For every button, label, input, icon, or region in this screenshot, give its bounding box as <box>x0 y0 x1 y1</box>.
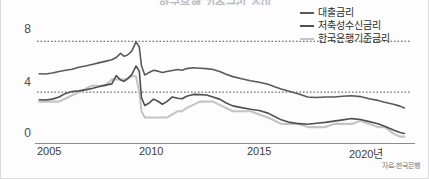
x-axis-tick-2005: 2005 <box>37 145 61 157</box>
x-axis-tick-2010: 2010 <box>139 145 163 157</box>
legend-item-deposit-rate: 저축성수신금리 <box>300 20 390 32</box>
legend-swatch-loan-rate <box>300 12 314 14</box>
legend-label-deposit-rate: 저축성수신금리 <box>318 20 381 32</box>
chart-figure: 한국은행 기준금리 추이 8 4 0 2005 2010 2015 2020년 … <box>0 0 429 179</box>
legend-label-base-rate: 한국은행기준금리 <box>318 33 390 45</box>
legend-label-loan-rate: 대출금리 <box>318 7 354 19</box>
x-axis-line <box>35 143 415 144</box>
legend-item-loan-rate: 대출금리 <box>300 7 390 19</box>
y-axis-tick-8: 8 <box>9 22 31 36</box>
y-axis-tick-4: 4 <box>9 75 31 89</box>
chart-title: 한국은행 기준금리 추이 <box>1 0 429 5</box>
series-line-0 <box>39 42 404 108</box>
y-axis-tick-0: 0 <box>9 126 31 140</box>
legend-swatch-deposit-rate <box>300 25 314 27</box>
chart-legend: 대출금리 저축성수신금리 한국은행기준금리 <box>300 7 390 45</box>
x-axis-tick-2015: 2015 <box>247 145 271 157</box>
x-axis-tick-2020: 2020년 <box>349 145 383 161</box>
source-note: 자료-한국은행 <box>382 160 420 170</box>
legend-item-base-rate: 한국은행기준금리 <box>300 33 390 45</box>
legend-swatch-base-rate <box>300 38 314 40</box>
series-line-2 <box>39 76 404 136</box>
